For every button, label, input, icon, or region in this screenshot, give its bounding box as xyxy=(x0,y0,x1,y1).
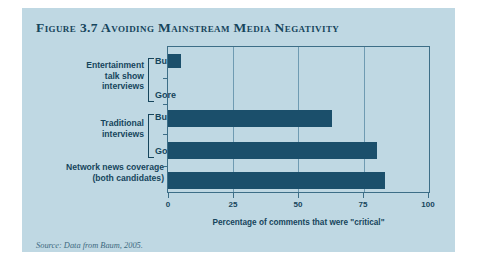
category-label-line: (both candidates) xyxy=(26,173,164,184)
tick-label-100: 100 xyxy=(413,200,443,209)
tick-label-25: 25 xyxy=(218,200,248,209)
group-bracket-traditional xyxy=(148,114,154,158)
category-label-line: Network news coverage xyxy=(26,162,164,173)
bar-row-bush-traditional xyxy=(168,110,429,127)
figure-panel: Figure 3.7 Avoiding Mainstream Media Neg… xyxy=(22,8,455,252)
bar-row-gore-traditional xyxy=(168,142,429,159)
tick-label-0: 0 xyxy=(153,200,183,209)
axis-minor-tick xyxy=(163,134,168,135)
category-label-network-news: Network news coverage (both candidates) xyxy=(26,162,164,183)
category-label-line: Traditional xyxy=(28,118,144,129)
axis-minor-tick xyxy=(163,78,168,79)
bar-bush-traditional xyxy=(168,110,332,127)
bar-row-bush-entertainment xyxy=(168,54,429,68)
tick-label-50: 50 xyxy=(283,200,313,209)
source-note: Source: Data from Baum, 2005. xyxy=(36,241,143,250)
tick-mark-0 xyxy=(168,193,169,198)
bar-bush-entertainment xyxy=(168,54,181,68)
axis-minor-tick xyxy=(163,166,168,167)
category-label-traditional: Traditional interviews xyxy=(28,118,144,139)
figure-title: Figure 3.7 Avoiding Mainstream Media Neg… xyxy=(36,20,446,36)
bar-network-news xyxy=(168,172,385,189)
category-label-line: Entertainment xyxy=(28,60,144,71)
tick-mark-50 xyxy=(298,193,299,198)
axis-minor-tick xyxy=(163,104,168,105)
bar-gore-traditional xyxy=(168,142,377,159)
category-label-line: talk show xyxy=(28,71,144,82)
tick-mark-25 xyxy=(233,193,234,198)
category-label-line: interviews xyxy=(28,81,144,92)
category-label-line: interviews xyxy=(28,129,144,140)
bar-row-network-news xyxy=(168,172,429,189)
bar-row-gore-entertainment xyxy=(168,88,429,102)
tick-label-75: 75 xyxy=(348,200,378,209)
category-label-entertainment: Entertainment talk show interviews xyxy=(28,60,144,92)
x-axis-title: Percentage of comments that were "critic… xyxy=(167,218,430,227)
group-bracket-entertainment xyxy=(148,58,154,102)
tick-mark-75 xyxy=(363,193,364,198)
tick-mark-100 xyxy=(428,193,429,198)
